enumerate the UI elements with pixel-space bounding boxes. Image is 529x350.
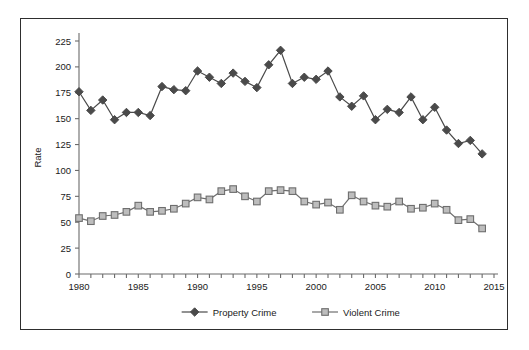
data-point-marker	[277, 187, 284, 194]
data-point-marker	[467, 216, 474, 223]
x-tick-label: 2005	[365, 281, 386, 292]
data-point-marker	[289, 188, 296, 195]
data-point-marker	[170, 85, 178, 93]
y-tick-label: 150	[55, 113, 71, 124]
data-point-marker	[301, 198, 308, 205]
data-point-marker	[241, 77, 249, 85]
data-point-marker	[111, 212, 118, 219]
legend-marker	[190, 308, 198, 316]
data-point-marker	[300, 73, 308, 81]
x-tick-label: 2010	[424, 281, 445, 292]
data-point-marker	[194, 194, 201, 201]
y-tick-label: 175	[55, 87, 71, 98]
x-tick-label: 2015	[483, 281, 504, 292]
legend-item-1[interactable]: Property Crime	[182, 307, 277, 318]
data-point-marker	[75, 88, 83, 96]
data-point-marker	[384, 203, 391, 210]
data-point-marker	[76, 215, 83, 222]
y-tick-label: 75	[60, 191, 71, 202]
data-point-marker	[372, 202, 379, 209]
data-point-marker	[205, 73, 213, 81]
data-point-marker	[230, 186, 237, 193]
data-point-marker	[348, 192, 355, 199]
data-point-marker	[123, 209, 130, 216]
y-tick-label: 0	[66, 269, 71, 280]
x-tick-label: 1995	[246, 281, 267, 292]
data-point-marker	[254, 198, 261, 205]
series-line	[79, 50, 482, 154]
data-point-marker	[420, 204, 427, 211]
data-point-marker	[324, 67, 332, 75]
y-tick-label: 225	[55, 36, 71, 47]
data-point-marker	[242, 193, 249, 200]
data-point-marker	[288, 79, 296, 87]
data-point-marker	[313, 201, 320, 208]
data-point-marker	[360, 198, 367, 205]
data-point-marker	[396, 198, 403, 205]
data-point-marker	[158, 82, 166, 90]
data-point-marker	[479, 225, 486, 232]
data-point-marker	[325, 199, 332, 206]
y-axis-title: Rate	[32, 147, 43, 167]
data-point-marker	[159, 208, 166, 215]
data-point-marker	[218, 188, 225, 195]
legend-label: Property Crime	[213, 307, 277, 318]
data-point-marker	[253, 83, 261, 91]
x-tick-label: 1980	[68, 281, 89, 292]
crime-rate-line-chart: 0255075100125150175200225198019851990199…	[21, 19, 506, 328]
series-2	[76, 186, 486, 232]
legend-label: Violent Crime	[343, 307, 400, 318]
data-point-marker	[455, 217, 462, 224]
data-point-marker	[99, 213, 106, 220]
x-tick-label: 1990	[187, 281, 208, 292]
data-point-marker	[135, 202, 142, 209]
x-tick-label: 2000	[306, 281, 327, 292]
legend-item-2[interactable]: Violent Crime	[312, 307, 400, 318]
data-point-marker	[312, 75, 320, 83]
y-tick-label: 50	[60, 217, 71, 228]
data-point-marker	[206, 196, 213, 203]
data-point-marker	[443, 206, 450, 213]
data-point-marker	[134, 108, 142, 116]
y-tick-label: 25	[60, 243, 71, 254]
data-point-marker	[110, 116, 118, 124]
data-point-marker	[171, 205, 178, 212]
data-point-marker	[431, 200, 438, 207]
data-point-marker	[182, 87, 190, 95]
data-point-marker	[408, 205, 415, 212]
data-point-marker	[146, 111, 154, 119]
legend-marker	[322, 309, 329, 316]
data-point-marker	[193, 67, 201, 75]
x-tick-label: 1985	[128, 281, 149, 292]
figure-container: 0255075100125150175200225198019851990199…	[0, 0, 529, 350]
data-point-marker	[122, 108, 130, 116]
data-point-marker	[147, 209, 154, 216]
data-point-marker	[182, 200, 189, 207]
series-1	[75, 46, 487, 158]
y-tick-label: 125	[55, 139, 71, 150]
chart-frame: 0255075100125150175200225198019851990199…	[20, 18, 508, 330]
y-tick-label: 100	[55, 165, 71, 176]
data-point-marker	[265, 188, 272, 195]
data-point-marker	[337, 206, 344, 213]
data-point-marker	[88, 218, 95, 225]
y-tick-label: 200	[55, 61, 71, 72]
